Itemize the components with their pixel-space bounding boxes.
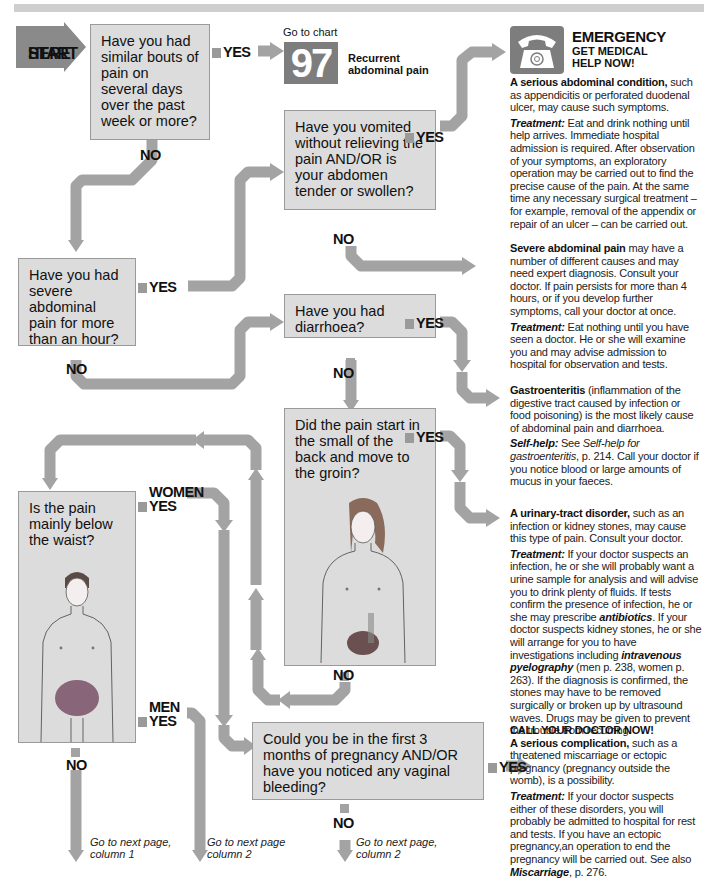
q5-no-label: NO [333, 668, 354, 682]
goto-next-col2-men[interactable]: Go to next pagecolumn 2 [207, 836, 285, 860]
emergency-title: EMERGENCY [572, 28, 666, 45]
urinary-tract-text: A urinary-tract disorder, such as an inf… [510, 507, 702, 740]
q2-no-label: NO [66, 362, 87, 376]
gastroenteritis-text: Gastroenteritis (inflammation of the dig… [510, 384, 700, 491]
q1-yes-label: YES [212, 45, 251, 59]
goto-next-col2-pregnancy[interactable]: Go to next page,column 2 [356, 836, 437, 860]
severe-pain-text: Severe abdominal pain may have a number … [510, 242, 700, 374]
q5-yes-label: YES [405, 430, 444, 444]
q3-no-label: NO [333, 232, 354, 246]
question-back-to-groin: Did the pain start in the small of the b… [284, 408, 436, 666]
emergency-subtitle: GET MEDICALHELP NOW! [572, 45, 648, 69]
question-text: Have you had diarrhoea? [295, 303, 384, 335]
q7-no-label: NO [333, 816, 354, 830]
pregnancy-complication-text: CALL YOUR DOCTOR NOW! A serious complica… [510, 724, 702, 881]
q3-yes-label: YES [405, 130, 444, 144]
question-similar-bouts: Have you had similar bouts of pain on se… [90, 24, 210, 140]
question-text: Have you had similar bouts of pain on se… [101, 33, 199, 129]
q6-women-yes-label: WOMENYES [138, 485, 204, 513]
female-figure-illustration [297, 493, 427, 663]
question-text: Have you vomited without relieving the p… [295, 119, 423, 199]
telephone-icon [510, 26, 564, 74]
question-text: Is the pain mainly below the waist? [29, 500, 113, 548]
q2-yes-label: YES [138, 280, 177, 294]
goto-next-col1[interactable]: Go to next page,column 1 [90, 836, 171, 860]
q1-no-label: NO [140, 148, 161, 162]
question-vomited: Have you vomited without relieving the p… [284, 110, 436, 210]
emergency-text: A serious abdominal condition, such as a… [510, 76, 700, 233]
goto-chart-prefix: Go to chart [283, 26, 337, 38]
miscarriage-link[interactable]: Miscarriage [510, 866, 569, 878]
question-severe-pain: Have you had severe abdominal pain for m… [18, 258, 136, 346]
q4-no-label: NO [333, 366, 354, 380]
question-pregnancy: Could you be in the first 3 months of pr… [252, 722, 484, 800]
page-header-bar [14, 4, 704, 12]
q4-yes-label: YES [405, 316, 444, 330]
start-label-2: HERE [28, 46, 70, 62]
chart-97-link[interactable]: 97 [284, 42, 338, 84]
q6-no-label: NO [66, 758, 87, 772]
antibiotics-link[interactable]: antibiotics [599, 611, 652, 623]
question-below-waist: Is the pain mainly below the waist? [18, 491, 136, 743]
start-here-arrow: STARTHERE [16, 22, 86, 76]
male-figure-illustration [19, 562, 135, 742]
goto-chart-title: Recurrentabdominal pain [348, 52, 429, 76]
q6-men-yes-label: MENYES [138, 700, 180, 728]
question-text: Have you had severe abdominal pain for m… [29, 267, 119, 347]
question-text: Could you be in the first 3 months of pr… [263, 731, 458, 795]
question-text: Did the pain start in the small of the b… [295, 417, 420, 481]
